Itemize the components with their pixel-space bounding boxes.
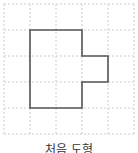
grid-figure (0, 0, 138, 140)
figure-caption: 처음 도형 (0, 143, 138, 153)
shape-polygon (30, 30, 108, 108)
grid-lines (4, 4, 134, 134)
